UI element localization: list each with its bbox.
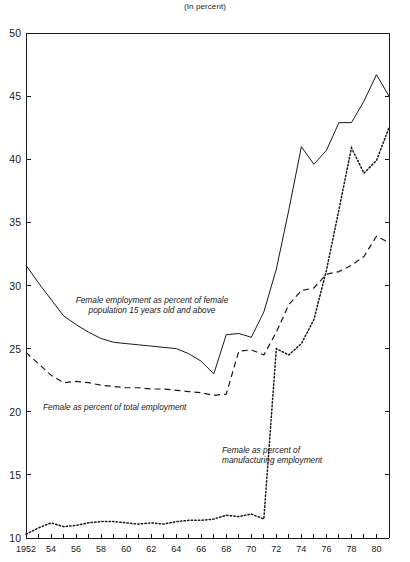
x-axis-tick-label: 60 [121,544,131,554]
x-axis-tick-label: 56 [71,544,81,554]
x-axis-tick-label: 62 [146,544,156,554]
annotation-manufacturing-employment: Female as percent of [222,445,302,455]
annotation-manufacturing-employment: manufacturing employment [222,455,323,465]
y-axis-tick-label: 40 [9,153,21,165]
y-axis: 101520253035404550 [9,27,31,544]
annotation-total-employment: Female as percent of total employment [43,402,187,412]
y-axis-tick-label: 15 [9,469,21,481]
data-series-2 [26,236,389,395]
data-series-3 [26,128,389,535]
x-axis-tick-label: 76 [321,544,331,554]
annotation-female-employment: Female employment as percent of female [76,295,229,305]
chart-annotations: Female employment as percent of femalepo… [43,295,323,465]
annotation-female-employment: population 15 years old and above [88,305,216,315]
x-axis-tick-label: 64 [171,544,181,554]
x-axis-tick-label: 1952 [16,544,36,554]
x-axis-tick-label: 74 [296,544,306,554]
y-axis-tick-label: 25 [9,343,21,355]
x-axis: 19525456586062646668707274767880 [16,33,389,554]
x-axis-tick-label: 72 [271,544,281,554]
x-axis-tick-label: 58 [96,544,106,554]
data-series-1 [26,75,389,374]
x-axis-tick-label: 70 [246,544,256,554]
y-axis-tick-label: 35 [9,216,21,228]
y-axis-tick-label: 10 [9,532,21,544]
x-axis-tick-label: 78 [346,544,356,554]
y-axis-tick-label: 30 [9,280,21,292]
x-axis-tick-label: 66 [196,544,206,554]
chart-plot-area: 101520253035404550 195254565860626466687… [0,0,410,562]
x-axis-tick-label: 68 [221,544,231,554]
y-axis-tick-label: 50 [9,27,21,39]
x-axis-tick-label: 80 [371,544,381,554]
y-axis-tick-label: 45 [9,90,21,102]
chart-figure: (In percent) 101520253035404550 19525456… [0,0,410,562]
y-axis-tick-label: 20 [9,406,21,418]
x-axis-tick-label: 54 [46,544,56,554]
